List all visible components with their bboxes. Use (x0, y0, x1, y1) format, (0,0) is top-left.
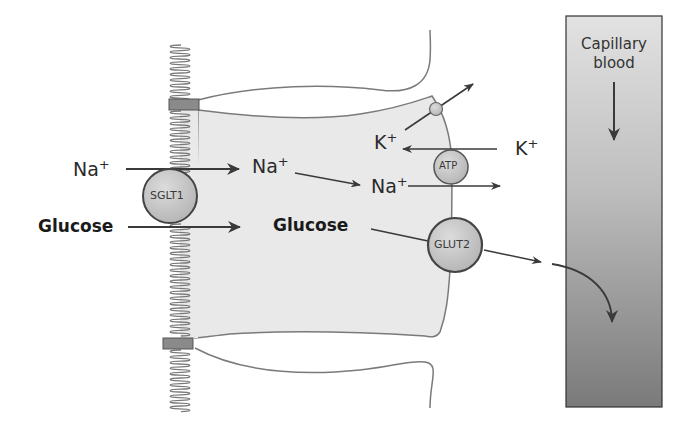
neighbor-cell-bottom (195, 348, 433, 408)
na-cell-label: Na+ (252, 157, 289, 176)
glucose-cell-label: Glucose (273, 217, 348, 234)
glucose-lumen-label: Glucose (38, 218, 113, 235)
tight-junction-top (169, 99, 199, 110)
glucose-absorption-diagram: Na+ Na+ Na+ K+ K+ Glucose Glucose SGLT1 … (0, 0, 693, 432)
capillary-label: Capillary blood (579, 35, 649, 73)
glut2-label: GLUT2 (434, 239, 470, 250)
atp-label: ATP (439, 161, 457, 171)
na-lumen-label: Na+ (73, 160, 110, 179)
capillary-vessel (566, 16, 662, 407)
k-blood-label: K+ (515, 139, 538, 158)
neighbor-cell-top (198, 30, 430, 100)
capillary-label-line2: blood (579, 54, 649, 73)
na-exit-label: Na+ (371, 177, 408, 196)
glucose-exit-arrow (484, 250, 541, 262)
sglt1-label: SGLT1 (150, 190, 184, 201)
tight-junction-bottom (163, 338, 193, 349)
capillary-label-line1: Capillary (579, 35, 649, 54)
k-channel (430, 103, 443, 116)
k-cell-label: K+ (374, 133, 397, 152)
